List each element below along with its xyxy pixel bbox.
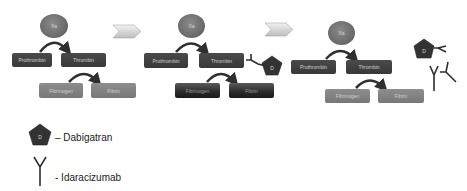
conversion-arrow-icon <box>40 43 68 52</box>
legend-dabigatran-label: – Dabigatran <box>55 132 112 143</box>
prothrombin-label: Prothrombin <box>18 57 45 63</box>
chevron-arrow-icon <box>113 25 141 38</box>
thrombin-label: Thrombin <box>73 57 94 63</box>
legend-dabigatran-pentagon-icon: D <box>29 124 51 145</box>
fibrinogen-node: Fibrinogen <box>39 83 83 98</box>
factor-xa-label: Xa <box>338 30 344 36</box>
fibrin-node: Fibrin <box>91 83 136 98</box>
thrombin-node: Thrombin <box>61 53 106 67</box>
dabigatran-pentagon-icon: D <box>262 56 282 75</box>
svg-text:D: D <box>422 48 426 54</box>
fibrinogen-node: Fibrinogen <box>325 89 370 103</box>
factor-xa-node: Xa <box>328 21 355 45</box>
prothrombin-node: Prothrombin <box>12 53 52 67</box>
conversion-arrow-icon <box>326 51 355 59</box>
conversion-arrow-icon <box>176 44 206 53</box>
legend-idaracizumab-antibody-icon <box>34 157 46 186</box>
svg-text:D: D <box>270 65 274 71</box>
factor-xa-node: Xa <box>178 14 205 38</box>
factor-xa-node: Xa <box>40 14 68 38</box>
legend-idaracizumab-label: - Idaracizumab <box>55 172 121 183</box>
fibrin-label: Fibrin <box>245 88 258 94</box>
prothrombin-node: Prothrombin <box>291 60 336 74</box>
fibrin-node: Fibrin <box>229 83 274 98</box>
thrombin-node: Thrombin <box>346 60 392 74</box>
fibrin-label: Fibrin <box>395 93 408 99</box>
svg-text:D: D <box>38 134 42 140</box>
thrombin-label: Thrombin <box>358 64 379 70</box>
thrombin-node: Thrombin <box>199 53 244 68</box>
conversion-arrow-icon <box>207 74 235 82</box>
fibrinogen-label: Fibrinogen <box>186 88 210 94</box>
fibrinogen-node: Fibrinogen <box>175 83 220 98</box>
factor-xa-label: Xa <box>188 23 194 29</box>
idaracizumab-antibody-icon <box>440 62 456 82</box>
fibrinogen-label: Fibrinogen <box>49 88 73 94</box>
thrombin-label: Thrombin <box>211 58 232 64</box>
fibrin-label: Fibrin <box>107 88 120 94</box>
fibrinogen-label: Fibrinogen <box>336 93 360 99</box>
factor-xa-label: Xa <box>51 23 57 29</box>
conversion-arrow-icon <box>356 81 384 89</box>
prothrombin-label: Prothrombin <box>152 58 179 64</box>
dabigatran-pentagon-icon: D <box>414 39 434 58</box>
idaracizumab-antibody-icon <box>434 46 446 52</box>
idaracizumab-antibody-icon <box>430 66 438 91</box>
fibrin-node: Fibrin <box>378 89 424 103</box>
prothrombin-node: Prothrombin <box>144 53 188 68</box>
prothrombin-label: Prothrombin <box>300 64 327 70</box>
chevron-arrow-icon <box>265 23 293 36</box>
conversion-arrow-icon <box>69 74 98 82</box>
